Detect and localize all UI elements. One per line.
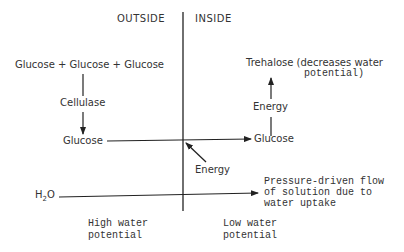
diagram: OUTSIDE INSIDE Glucose + Glucose + Gluco… bbox=[0, 0, 404, 252]
high-potential-line2: potential bbox=[88, 230, 142, 242]
glucose-inside-label: Glucose bbox=[254, 133, 294, 145]
flow-line3: water uptake bbox=[264, 198, 336, 210]
cellulase-label: Cellulase bbox=[60, 97, 105, 109]
high-potential-line1: High water bbox=[88, 218, 148, 230]
glucose-polymer-label: Glucose + Glucose + Glucose bbox=[15, 59, 164, 71]
trehalose-label-line2: potential) bbox=[304, 68, 364, 80]
low-potential-line2: potential bbox=[223, 230, 277, 242]
energy-lower-label: Energy bbox=[195, 164, 230, 176]
diagram-lines bbox=[0, 0, 404, 252]
glucose-outside-label: Glucose bbox=[63, 135, 103, 147]
outside-label: OUTSIDE bbox=[117, 13, 165, 25]
water-label: H2O bbox=[35, 189, 55, 205]
low-potential-line1: Low water bbox=[223, 218, 277, 230]
inside-label: INSIDE bbox=[195, 13, 232, 25]
energy-upper-label: Energy bbox=[253, 101, 288, 113]
